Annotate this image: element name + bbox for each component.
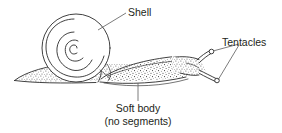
snail-anatomy-figure: Shell Tentacles Soft body (no segments)	[0, 0, 282, 133]
upper-tentacle-tip	[209, 49, 214, 54]
tentacles-label: Tentacles	[222, 36, 266, 48]
shell-label: Shell	[128, 6, 151, 18]
snail-shell	[42, 14, 110, 82]
snail-soft-body	[10, 52, 216, 88]
soft-body-label-line2: (no segments)	[104, 115, 171, 127]
tentacle-lower-leader-line	[218, 45, 239, 80]
soft-body-label-line1: Soft body	[116, 102, 161, 114]
upper-tentacle-stalk-2	[199, 54, 211, 64]
shell-leader-line	[98, 13, 126, 30]
